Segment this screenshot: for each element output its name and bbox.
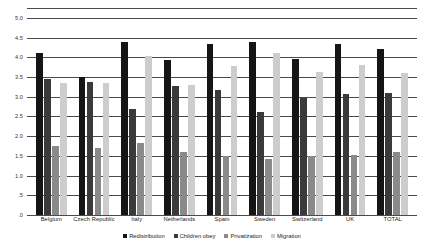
bar-group [73, 8, 116, 215]
bar[interactable] [385, 93, 392, 215]
bar[interactable] [180, 152, 187, 215]
legend-swatch-icon [271, 234, 275, 238]
bar-chart: .0.51.01.52.02.53.03.54.04.55.0 BelgiumC… [0, 0, 424, 248]
bar[interactable] [351, 155, 358, 215]
bar[interactable] [343, 94, 350, 215]
y-tick-label: 4.5 [15, 35, 23, 41]
bar[interactable] [103, 83, 110, 215]
bar-group [286, 8, 329, 215]
bar[interactable] [265, 159, 272, 215]
legend-label: Redistribution [129, 233, 164, 239]
bar[interactable] [87, 82, 94, 215]
legend-swatch-icon [224, 234, 228, 238]
bar[interactable] [95, 148, 102, 215]
bar[interactable] [207, 44, 214, 216]
bar-group [158, 8, 201, 215]
legend-swatch-icon [123, 234, 127, 238]
bar[interactable] [393, 152, 400, 215]
bar[interactable] [316, 72, 323, 215]
legend-swatch-icon [174, 234, 178, 238]
y-tick-label: 2.5 [15, 113, 23, 119]
bar[interactable] [52, 146, 59, 215]
bar[interactable] [36, 53, 43, 215]
bar[interactable] [129, 109, 136, 215]
bar[interactable] [215, 90, 222, 215]
bars-layer [27, 8, 417, 215]
bar[interactable] [60, 83, 67, 215]
y-tick-label: 1.0 [15, 173, 23, 179]
bar[interactable] [79, 77, 86, 215]
x-axis-label: TOTAL [371, 216, 414, 222]
bar[interactable] [249, 42, 256, 215]
bar[interactable] [137, 143, 144, 215]
bar[interactable] [292, 59, 299, 215]
y-tick-label: .0 [18, 212, 23, 218]
x-axis-label: Italy [115, 216, 158, 222]
legend-item[interactable]: Migration [271, 233, 301, 239]
legend-item[interactable]: Privatization [224, 233, 262, 239]
bar[interactable] [300, 98, 307, 215]
chart-legend: RedistributionChildren obeyPrivatization… [0, 233, 424, 239]
y-tick-label: 5.0 [15, 15, 23, 21]
bar[interactable] [377, 49, 384, 215]
y-tick-label: 2.0 [15, 133, 23, 139]
bar[interactable] [401, 73, 408, 215]
legend-label: Migration [277, 233, 301, 239]
x-axis-label: Belgium [30, 216, 73, 222]
bar-group [243, 8, 286, 215]
bar[interactable] [223, 156, 230, 215]
legend-item[interactable]: Children obey [174, 233, 216, 239]
x-axis-label: UK [329, 216, 372, 222]
bar-group [201, 8, 244, 215]
bar[interactable] [359, 65, 366, 215]
bar[interactable] [335, 44, 342, 216]
y-tick-label: 4.0 [15, 54, 23, 60]
y-tick-label: .5 [18, 192, 23, 198]
y-tick-label: 1.5 [15, 153, 23, 159]
bar[interactable] [188, 85, 195, 215]
bar[interactable] [231, 66, 238, 215]
x-axis-label: Spain [201, 216, 244, 222]
bar-group [115, 8, 158, 215]
y-tick-label: 3.5 [15, 74, 23, 80]
legend-label: Privatization [230, 233, 262, 239]
x-axis-label: Sweden [243, 216, 286, 222]
bar[interactable] [172, 86, 179, 215]
bar[interactable] [308, 156, 315, 215]
bar-group [329, 8, 372, 215]
legend-label: Children obey [180, 233, 216, 239]
bar-group [371, 8, 414, 215]
x-axis-label: Switzerland [286, 216, 329, 222]
y-tick-label: 3.0 [15, 94, 23, 100]
plot-area: .0.51.01.52.02.53.03.54.04.55.0 [27, 8, 417, 215]
bar-group [30, 8, 73, 215]
legend-item[interactable]: Redistribution [123, 233, 164, 239]
bar[interactable] [257, 112, 264, 215]
bar[interactable] [44, 79, 51, 215]
x-axis-category-labels: BelgiumCzech RepublicItalyNetherlandsSpa… [27, 216, 417, 222]
bar[interactable] [145, 56, 152, 215]
x-axis-label: Czech Republic [73, 216, 116, 222]
x-axis-label: Netherlands [158, 216, 201, 222]
bar[interactable] [164, 60, 171, 215]
bar[interactable] [273, 53, 280, 215]
bar[interactable] [121, 42, 128, 215]
